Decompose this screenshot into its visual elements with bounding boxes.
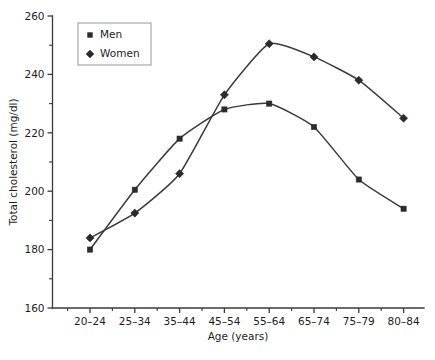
data-point-women bbox=[310, 53, 318, 61]
data-point-men bbox=[401, 206, 406, 211]
y-axis-group: 160180200220240260 Total cholesterol (mg… bbox=[7, 10, 53, 314]
data-point-men bbox=[87, 247, 92, 252]
chart-legend: MenWomen bbox=[78, 23, 151, 65]
legend-label-men: Men bbox=[100, 28, 122, 40]
y-axis-tick-labels: 160180200220240260 bbox=[24, 10, 44, 314]
x-tick-label: 35–44 bbox=[164, 315, 196, 327]
y-tick-label: 180 bbox=[24, 243, 44, 255]
x-tick-label: 55–64 bbox=[253, 315, 285, 327]
x-axis-tick-labels: 20–2425–3435–4445–5455–6465–7475–7980–84 bbox=[74, 315, 420, 327]
data-point-women bbox=[265, 40, 273, 48]
data-point-men bbox=[132, 187, 137, 192]
x-axis-title: Age (years) bbox=[208, 330, 269, 342]
series-women bbox=[86, 40, 408, 242]
x-tick-label: 45–54 bbox=[208, 315, 240, 327]
x-axis-group: 20–2425–3435–4445–5455–6465–7475–7980–84… bbox=[53, 308, 425, 342]
x-tick-label: 20–24 bbox=[74, 315, 106, 327]
series-line-women bbox=[90, 43, 404, 238]
series-layer bbox=[86, 40, 408, 253]
data-point-men bbox=[177, 136, 182, 141]
series-line-men bbox=[90, 103, 404, 249]
y-tick-label: 220 bbox=[24, 127, 44, 139]
y-tick-label: 240 bbox=[24, 68, 44, 80]
x-tick-label: 80–84 bbox=[388, 315, 420, 327]
series-men bbox=[87, 101, 406, 252]
data-point-men bbox=[356, 177, 361, 182]
x-tick-label: 65–74 bbox=[298, 315, 330, 327]
x-tick-label: 25–34 bbox=[119, 315, 151, 327]
y-tick-label: 160 bbox=[24, 302, 44, 314]
x-tick-label: 75–79 bbox=[343, 315, 375, 327]
data-point-men bbox=[222, 107, 227, 112]
y-tick-label: 200 bbox=[24, 185, 44, 197]
legend-marker-men bbox=[87, 32, 92, 37]
legend-label-women: Women bbox=[100, 47, 140, 59]
data-point-men bbox=[311, 124, 316, 129]
y-axis-title: Total cholesterol (mg/dl) bbox=[7, 98, 19, 226]
chart-container: 160180200220240260 Total cholesterol (mg… bbox=[0, 0, 435, 360]
data-point-women bbox=[86, 234, 94, 242]
y-tick-label: 260 bbox=[24, 10, 44, 22]
data-point-men bbox=[267, 101, 272, 106]
line-chart: 160180200220240260 Total cholesterol (mg… bbox=[0, 0, 435, 360]
